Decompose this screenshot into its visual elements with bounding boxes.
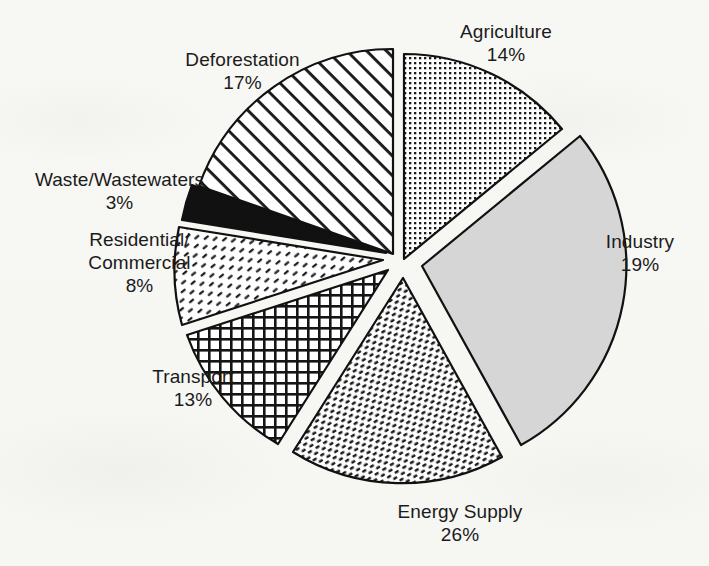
pie-label-industry: Industry 19% xyxy=(575,230,705,276)
pie-label-transport-value: 13% xyxy=(108,388,278,411)
pie-label-transport-name: Transport xyxy=(108,365,278,388)
pie-label-residential-commercial-name-line1: Residential/ xyxy=(52,228,227,251)
pie-label-agriculture-value: 14% xyxy=(406,43,606,66)
pie-label-residential-commercial: Residential/ Commercial 8% xyxy=(52,228,227,298)
pie-label-deforestation-name: Deforestation xyxy=(150,48,335,71)
pie-label-waste-wastewaters-name: Waste/Wastewaters xyxy=(12,168,227,191)
pie-label-deforestation-value: 17% xyxy=(150,71,335,94)
pie-label-residential-commercial-value: 8% xyxy=(52,274,227,297)
pie-label-energy-supply: Energy Supply 26% xyxy=(345,500,575,546)
pie-chart: Agriculture 14% Industry 19% Energy Supp… xyxy=(0,0,709,566)
pie-label-waste-wastewaters: Waste/Wastewaters 3% xyxy=(12,168,227,214)
pie-label-agriculture-name: Agriculture xyxy=(406,20,606,43)
pie-label-industry-name: Industry xyxy=(575,230,705,253)
pie-label-industry-value: 19% xyxy=(575,253,705,276)
pie-label-residential-commercial-name-line2: Commercial xyxy=(52,251,227,274)
pie-label-waste-wastewaters-value: 3% xyxy=(12,191,227,214)
pie-label-deforestation: Deforestation 17% xyxy=(150,48,335,94)
pie-label-agriculture: Agriculture 14% xyxy=(406,20,606,66)
pie-label-energy-supply-value: 26% xyxy=(345,523,575,546)
pie-label-transport: Transport 13% xyxy=(108,365,278,411)
pie-label-energy-supply-name: Energy Supply xyxy=(345,500,575,523)
